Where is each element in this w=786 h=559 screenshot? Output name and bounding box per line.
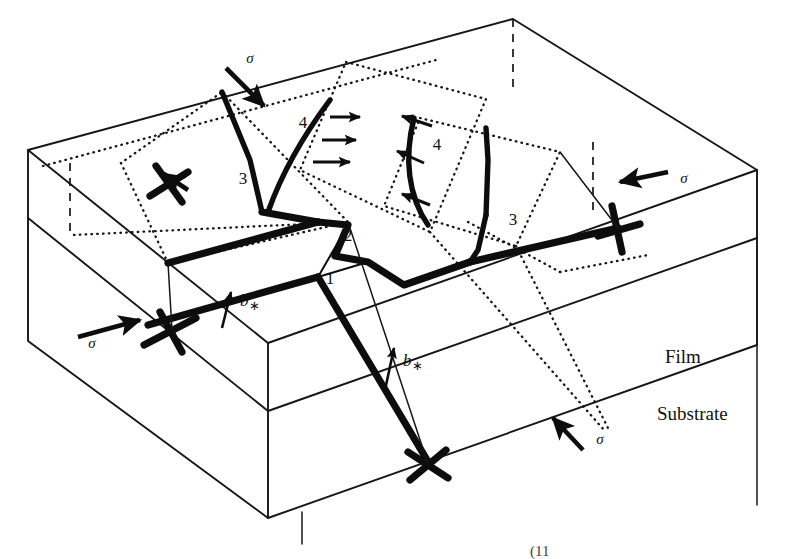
sigma-label-top-left: σ <box>246 50 254 66</box>
sigma-arrow-right <box>620 172 668 182</box>
b-star-arrow-left <box>222 292 231 328</box>
threading-arm-right-upper <box>486 128 488 215</box>
film-substrate-interface-front <box>28 218 757 411</box>
sigma-arrow-bottom-right <box>553 418 583 450</box>
segment-label-3-right: 3 <box>509 210 518 229</box>
dislocation-loop-core <box>318 222 470 285</box>
sigma-arrow-bottom-left <box>78 320 140 337</box>
sigma-label-right: σ <box>680 170 688 186</box>
misfit-dislocation-left <box>148 277 318 325</box>
segment-label-1: 1 <box>326 269 335 288</box>
glide-arrow-right-1 <box>402 116 432 126</box>
segment-label-4-left: 4 <box>299 113 308 132</box>
threading-arm-left-foot <box>262 212 318 222</box>
glide-arm-right-curve <box>409 118 428 225</box>
dislocation-diagram-svg: σ σ σ σ 1 2 3 3 4 4 b∗ b∗ Film Substrate… <box>0 0 786 559</box>
substrate-front-left-bottom <box>28 218 268 518</box>
glide-trace-top-left <box>43 60 436 166</box>
substrate-front-right-bottom <box>268 345 757 518</box>
segment-label-4-right: 4 <box>433 135 442 154</box>
b-star-right-subscript: ∗ <box>412 358 423 373</box>
region-label-substrate: Substrate <box>657 403 728 424</box>
misfit-dislocation-left-upper <box>168 222 318 263</box>
b-star-label-right: b∗ <box>403 351 423 373</box>
b-star-left-letter: b <box>240 291 249 310</box>
segment-label-3-left: 3 <box>239 169 248 188</box>
region-label-film: Film <box>665 346 701 367</box>
glide-direction-arrows-left <box>313 117 360 162</box>
connector-right-marker <box>560 152 618 228</box>
dislocation-end-marker-bottom <box>408 450 448 480</box>
misfit-dislocation-right <box>470 228 618 262</box>
segment-label-2: 2 <box>344 226 353 245</box>
glide-trace-descend-left <box>430 232 604 430</box>
sigma-label-bottom-left: σ <box>88 335 96 351</box>
threading-arm-right <box>470 215 486 262</box>
stress-arrows <box>78 68 668 450</box>
figure-root: σ σ σ σ 1 2 3 3 4 4 b∗ b∗ Film Substrate… <box>0 0 786 559</box>
film-top-face <box>28 19 757 343</box>
glide-parallelogram-center <box>300 62 486 232</box>
caption-fragment: (11 <box>530 543 549 559</box>
b-star-right-letter: b <box>403 351 412 370</box>
b-star-left-subscript: ∗ <box>249 298 260 313</box>
sigma-label-bottom-right: σ <box>596 431 604 447</box>
glide-trace-interface-right <box>560 255 648 272</box>
threading-arm-left <box>222 92 262 212</box>
dislocation-network <box>144 92 640 480</box>
glide-trace-descend-right <box>516 246 608 428</box>
